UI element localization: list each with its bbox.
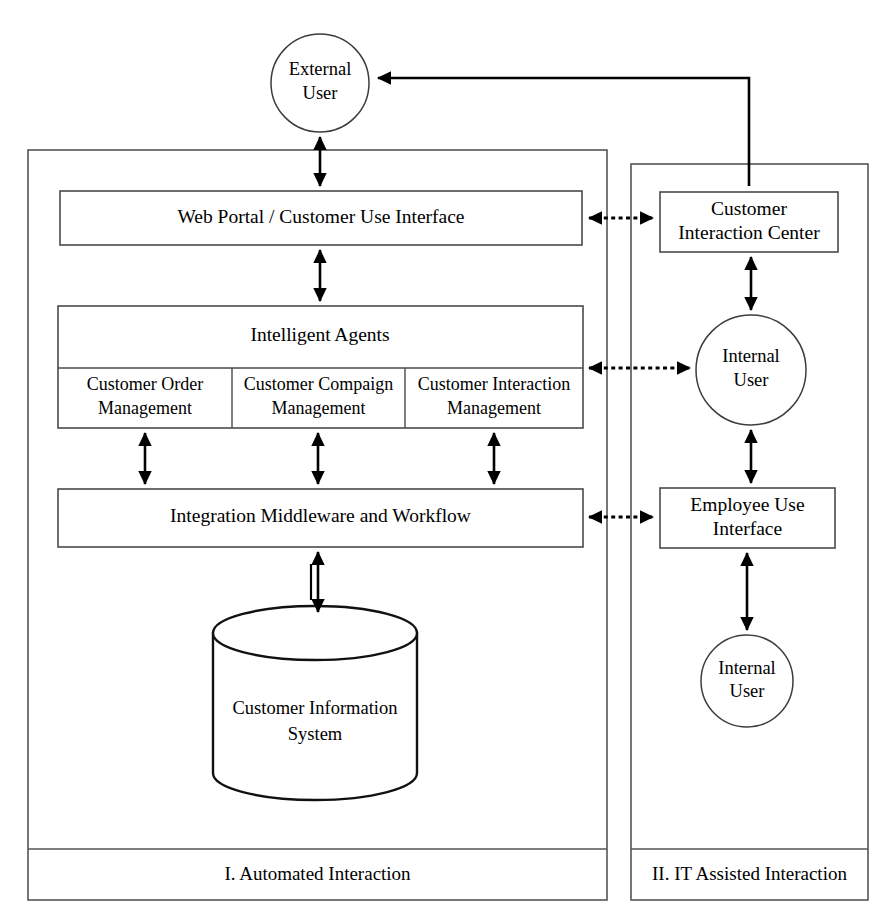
crm-architecture-diagram: I. Automated Interaction II. IT Assisted… [0, 0, 882, 917]
web-portal-label: Web Portal / Customer Use Interface [177, 206, 464, 227]
agent-customer-compaign-label-line2: Management [272, 398, 366, 418]
agent-customer-compaign-label-line1: Customer Compaign [244, 374, 394, 394]
internal-user-lower-label-line1: Internal [718, 658, 776, 678]
customer-interaction-center-label-line2: Interaction Center [678, 222, 820, 243]
agent-customer-order-label-line2: Management [98, 398, 192, 418]
internal-user-upper-label-line2: User [734, 370, 769, 390]
scan-artifact-text [300, 0, 303, 10]
agent-customer-order-label-line1: Customer Order [87, 374, 203, 394]
external-user-label-line2: User [303, 83, 338, 103]
internal-user-lower-label-line2: User [730, 681, 765, 701]
internal-user-upper-label-line1: Internal [722, 346, 780, 366]
customer-information-system-label-line2: System [288, 724, 343, 744]
connector-interaction-center-external-user [378, 78, 749, 186]
external-user-label-line1: External [289, 59, 352, 79]
employee-use-interface-label-line1: Employee Use [690, 494, 804, 515]
employee-use-interface-label-line2: Interface [713, 518, 782, 539]
customer-information-system-label-line1: Customer Information [233, 698, 398, 718]
agent-customer-interaction-label-line2: Management [447, 398, 541, 418]
panel-automated-footer-label: I. Automated Interaction [224, 863, 411, 884]
integration-middleware-label: Integration Middleware and Workflow [170, 505, 471, 526]
agent-customer-interaction-label-line1: Customer Interaction [418, 374, 570, 394]
intelligent-agents-label: Intelligent Agents [250, 324, 389, 345]
panel-it-assisted-footer-label: II. IT Assisted Interaction [652, 863, 847, 884]
customer-interaction-center-label-line1: Customer [711, 198, 787, 219]
diagram-canvas: I. Automated Interaction II. IT Assisted… [0, 0, 882, 917]
